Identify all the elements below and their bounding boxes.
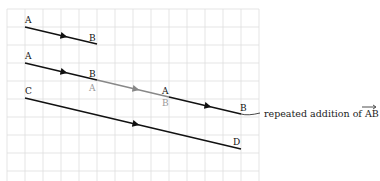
label-b2: B	[89, 69, 96, 79]
label-c: C	[25, 86, 32, 96]
label-a2: A	[24, 51, 32, 61]
caption: repeated addition of AB	[264, 108, 379, 119]
label-b1: B	[89, 33, 96, 43]
caption-text: repeated addition of	[264, 108, 365, 119]
vector-diagram: A B A B A A B B C D repeated addition of…	[0, 0, 380, 181]
caption-vector: AB	[364, 108, 379, 119]
grid	[7, 9, 259, 181]
label-b4: B	[240, 103, 247, 113]
label-d: D	[233, 137, 240, 147]
label-a3: A	[88, 83, 96, 93]
caption-leader-line	[241, 113, 260, 115]
label-a1: A	[24, 15, 32, 25]
label-b3: B	[162, 98, 169, 108]
label-a4: A	[161, 86, 169, 96]
